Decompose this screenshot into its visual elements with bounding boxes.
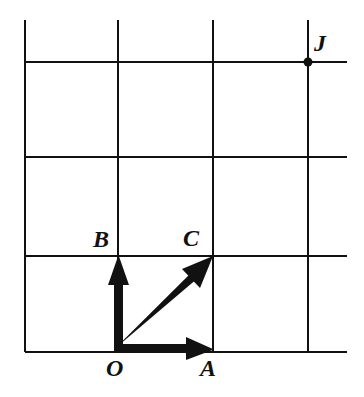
vector-diagram-figure: A B C J O — [0, 0, 364, 397]
label-point-c: C — [183, 226, 199, 250]
label-point-j: J — [314, 31, 326, 55]
grid-and-vectors-canvas — [0, 0, 364, 397]
label-point-a: A — [200, 356, 216, 380]
label-point-o: O — [106, 356, 123, 380]
point-j-dot — [304, 58, 313, 67]
label-point-b: B — [93, 227, 109, 251]
vector-ob — [108, 255, 129, 352]
vector-ob-arrowhead — [108, 255, 129, 285]
vector-oc — [115, 256, 213, 349]
grid-lines — [25, 20, 347, 352]
vector-oa-shaft — [118, 344, 194, 353]
